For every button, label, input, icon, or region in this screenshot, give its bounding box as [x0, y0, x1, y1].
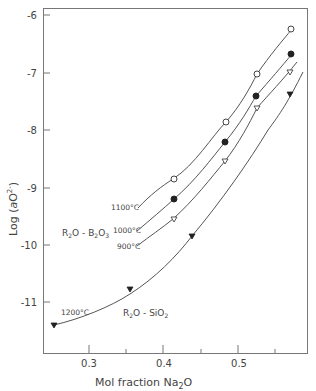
filled-circle-marker [171, 196, 177, 202]
x-tick-label: 0.4 [156, 358, 172, 369]
filled-triangle-marker [127, 287, 133, 292]
x-tick-label: 0.5 [231, 358, 247, 369]
filled-circle-marker [253, 93, 259, 99]
curve-1000C [137, 54, 292, 231]
label-r2o-sio2: R2O - SiO2 [123, 308, 168, 319]
x-axis [89, 345, 275, 353]
y-tick-label: -6 [27, 10, 37, 21]
open-circle-marker [223, 119, 229, 125]
curve-900C [137, 62, 297, 246]
series-900C-markers [171, 70, 293, 222]
y-tick-label: -7 [27, 68, 37, 79]
y-axis-label: Log (aO2-) [6, 182, 20, 236]
series-1200C-markers [51, 92, 293, 328]
filled-triangle-marker [287, 92, 293, 97]
label-r2o-b2o3: R2O - B2O3 [62, 228, 109, 239]
chart: -6 -7 -8 -9 -10 -11 0.3 0.4 0.5 Mol frac… [0, 0, 316, 391]
open-circle-marker [254, 71, 260, 77]
filled-circle-marker [222, 139, 228, 145]
x-axis-label: Mol fraction Na2O [95, 376, 193, 391]
open-circle-marker [288, 26, 294, 32]
x-tick-label: 0.3 [81, 358, 97, 369]
label-1100C: 1100°C [111, 203, 139, 212]
filled-triangle-marker [51, 323, 57, 328]
y-tick-label: -11 [21, 297, 37, 308]
curve-1200C [54, 72, 303, 325]
open-triangle-marker [254, 106, 260, 111]
label-1000C: 1000°C [113, 226, 141, 235]
filled-circle-marker [288, 51, 294, 57]
label-900C: 900°C [117, 242, 140, 251]
y-axis [43, 15, 50, 302]
open-circle-marker [171, 176, 177, 182]
y-tick-label: -9 [27, 183, 37, 194]
label-1200C: 1200°C [61, 308, 89, 317]
y-tick-label: -10 [21, 240, 37, 251]
curve-1100C [138, 29, 292, 208]
y-tick-label: -8 [27, 125, 37, 136]
